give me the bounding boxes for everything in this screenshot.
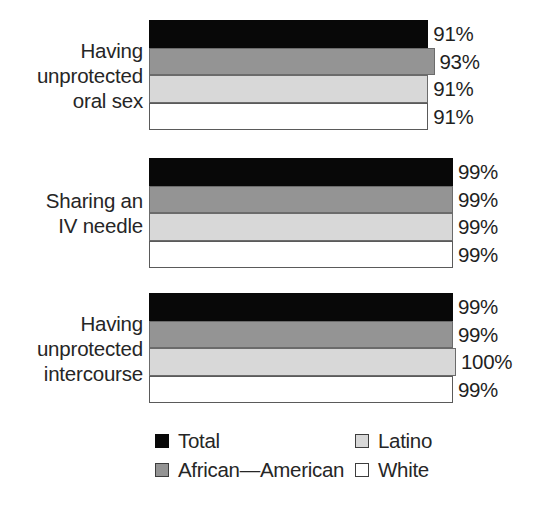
bar-value-label: 99% (458, 158, 498, 186)
bar-value-label: 91% (433, 75, 473, 103)
category-label: Havingunprotectedoral sex (37, 38, 143, 113)
bar-group: Havingunprotectedintercourse99%99%100%99… (0, 293, 549, 403)
legend-label: White (378, 459, 429, 481)
bar-value-label: 91% (433, 20, 473, 48)
legend-swatch-icon (155, 463, 169, 477)
legend-item[interactable]: White (355, 457, 429, 483)
bar-latino[interactable] (149, 213, 453, 241)
bar-african-american[interactable] (149, 186, 453, 214)
bar-african-american[interactable] (149, 48, 435, 76)
bar-latino[interactable] (149, 75, 428, 103)
legend-label: Latino (378, 430, 432, 452)
bar-white[interactable] (149, 376, 453, 404)
bar-value-label: 91% (433, 103, 473, 131)
legend-item[interactable]: Latino (355, 428, 432, 454)
bar-value-label: 93% (440, 48, 480, 76)
category-label-line: Sharing an (46, 188, 143, 213)
bar-group: Havingunprotectedoral sex91%93%91%91% (0, 20, 549, 130)
bar-value-label: 99% (458, 241, 498, 269)
bar-value-label: 100% (461, 348, 512, 376)
legend-swatch-icon (155, 434, 169, 448)
category-label-line: oral sex (37, 88, 143, 113)
legend-swatch-icon (355, 463, 369, 477)
bar-value-label: 99% (458, 213, 498, 241)
category-label: Sharing anIV needle (46, 188, 143, 238)
grouped-bar-chart: Havingunprotectedoral sex91%93%91%91%Sha… (0, 0, 549, 507)
category-label-line: unprotected (37, 63, 143, 88)
bar-group: Sharing anIV needle99%99%99%99% (0, 158, 549, 268)
legend-item[interactable]: Total (155, 428, 220, 454)
chart-legend: TotalAfrican—AmericanLatinoWhite (0, 428, 549, 490)
bar-value-label: 99% (458, 321, 498, 349)
legend-swatch-icon (355, 434, 369, 448)
bar-white[interactable] (149, 241, 453, 269)
bar-value-label: 99% (458, 376, 498, 404)
bar-total[interactable] (149, 20, 428, 48)
bar-total[interactable] (149, 293, 453, 321)
category-label-line: Having (37, 38, 143, 63)
category-label: Havingunprotectedintercourse (37, 311, 143, 386)
legend-label: African—American (178, 459, 344, 481)
bar-african-american[interactable] (149, 321, 453, 349)
bar-value-label: 99% (458, 186, 498, 214)
bar-latino[interactable] (149, 348, 456, 376)
bar-white[interactable] (149, 103, 428, 131)
legend-item[interactable]: African—American (155, 457, 344, 483)
bar-value-label: 99% (458, 293, 498, 321)
category-label-line: Having (37, 311, 143, 336)
legend-label: Total (178, 430, 220, 452)
bar-total[interactable] (149, 158, 453, 186)
category-label-line: intercourse (37, 361, 143, 386)
category-label-line: unprotected (37, 336, 143, 361)
category-label-line: IV needle (46, 213, 143, 238)
